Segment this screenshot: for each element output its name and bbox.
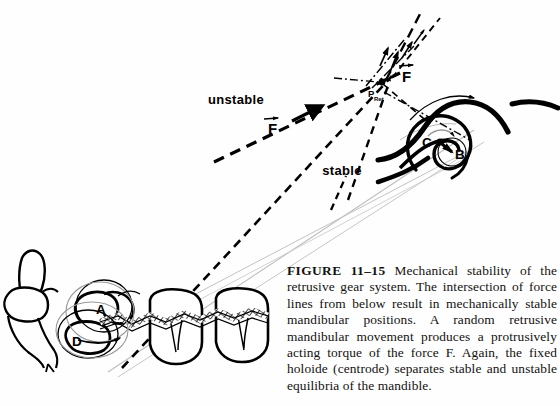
label-unstable: unstable — [208, 92, 264, 107]
incisor-root-mass — [4, 288, 48, 322]
label-force-unstable: F — [268, 120, 277, 137]
label-condyle-inner-b: B — [455, 147, 465, 162]
force-dashdot-to-condyle — [384, 92, 470, 140]
label-tooth-a: A — [96, 302, 106, 317]
figure-caption: FIGURE 11–15Mechanical stability of the … — [287, 263, 557, 394]
label-tooth-d: D — [72, 334, 82, 349]
incisor-lower-contour-2 — [38, 318, 57, 368]
figure-caption-text: Mechanical stability of the retrusive ge… — [287, 263, 557, 393]
label-stable: stable — [322, 163, 361, 178]
molar-second — [216, 288, 268, 362]
label-condyle-center-c: C — [422, 135, 432, 150]
force-arrowhead-1 — [380, 48, 388, 66]
incisor-lower-contour — [8, 316, 44, 368]
force-arrowhead-4 — [414, 30, 424, 44]
label-force-upper: F — [402, 68, 411, 85]
articular-eminence-curve — [378, 102, 508, 160]
figure-page: unstable F stable F P Ret C B A D FIGURE… — [0, 0, 560, 406]
dashed-line-to-C — [383, 84, 430, 124]
figure-number: FIGURE 11–15 — [287, 263, 386, 278]
ramus-line — [378, 158, 428, 182]
incisor-contact — [42, 289, 58, 292]
label-pivot-subscript: Ret — [374, 96, 384, 102]
stable-line-tail — [331, 176, 346, 210]
vector-bar-force-upper — [399, 65, 413, 66]
incisor-root-split — [46, 364, 54, 372]
rotation-arrow-inner — [428, 130, 454, 136]
pivot-point-dot — [379, 79, 386, 86]
molar-first — [150, 289, 202, 364]
eminence-curve-right — [512, 102, 558, 108]
force-dashed-up-2 — [392, 18, 440, 78]
vector-bar-force-lower — [264, 118, 278, 119]
unstable-force-dashed-line — [214, 73, 400, 162]
